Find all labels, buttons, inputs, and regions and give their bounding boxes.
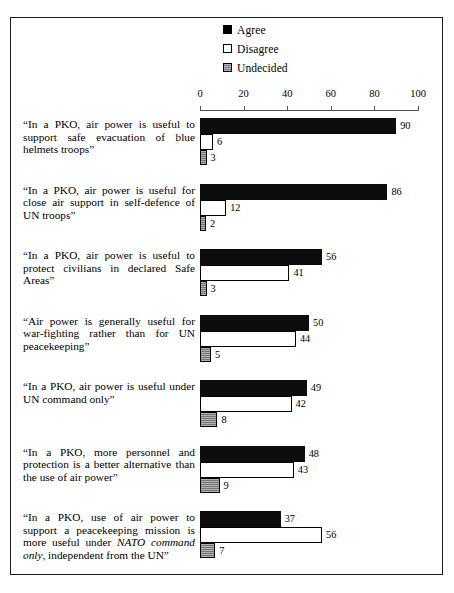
x-axis-tick-mark [374, 106, 375, 111]
bar-agree-value: 48 [309, 448, 319, 460]
bar-agree[interactable] [200, 511, 281, 527]
bar-disagree[interactable] [200, 462, 294, 478]
bar-undecided[interactable] [200, 478, 220, 493]
legend-swatch-undecided-icon [223, 63, 232, 72]
bar-undecided[interactable] [200, 281, 207, 296]
bar-row: 9 [200, 478, 444, 493]
bar-agree[interactable] [200, 184, 387, 200]
chart-frame: Agree Disagree Undecided 020406080100 “I… [10, 17, 443, 575]
bar-agree[interactable] [200, 118, 396, 134]
bar-disagree[interactable] [200, 134, 213, 150]
bar-undecided[interactable] [200, 347, 211, 362]
bar-undecided-value: 7 [219, 545, 224, 557]
bar-disagree[interactable] [200, 265, 289, 281]
bar-row: 48 [200, 446, 444, 462]
bar-disagree-value: 41 [293, 267, 303, 279]
x-axis-tick-mark [287, 106, 288, 111]
bar-row: 44 [200, 331, 444, 347]
bar-disagree[interactable] [200, 331, 296, 347]
legend-label-undecided: Undecided [237, 62, 288, 74]
bar-agree[interactable] [200, 249, 322, 265]
chart-group: “In a PKO, more personnel and protection… [11, 446, 444, 504]
bar-row: 6 [200, 134, 444, 150]
bar-undecided-value: 3 [211, 283, 216, 295]
question-label: “Air power is generally useful for war-f… [23, 315, 195, 353]
bar-group: 37567 [200, 511, 444, 569]
bar-undecided-value: 8 [221, 414, 226, 426]
bar-row: 41 [200, 265, 444, 281]
x-axis-line [200, 110, 418, 111]
bar-row: 43 [200, 462, 444, 478]
legend-swatch-disagree-icon [223, 44, 232, 53]
legend-item-disagree: Disagree [223, 40, 373, 57]
bar-group: 86122 [200, 184, 444, 242]
bar-undecided-value: 9 [224, 480, 229, 492]
legend-item-agree: Agree [223, 21, 373, 38]
bar-agree-value: 50 [313, 317, 323, 329]
chart-group: “In a PKO, air power is useful to protec… [11, 249, 444, 307]
bar-agree[interactable] [200, 315, 309, 331]
x-axis-tick-label: 20 [238, 88, 249, 99]
bar-agree[interactable] [200, 380, 307, 396]
x-axis-tick-mark [200, 106, 201, 111]
x-axis-tick-mark [331, 106, 332, 111]
question-label: “In a PKO, more personnel and protection… [23, 446, 195, 484]
question-label: “In a PKO, air power is useful to protec… [23, 249, 195, 287]
bar-row: 56 [200, 249, 444, 265]
x-axis-tick-label: 0 [197, 88, 202, 99]
bar-group: 48439 [200, 446, 444, 504]
bar-agree-value: 49 [311, 382, 321, 394]
chart-group: “Air power is generally useful for war-f… [11, 315, 444, 373]
chart-legend: Agree Disagree Undecided [223, 21, 373, 78]
bar-row: 90 [200, 118, 444, 134]
chart-group: “In a PKO, use of air power to support a… [11, 511, 444, 569]
bar-disagree[interactable] [200, 527, 322, 543]
bar-group: 50445 [200, 315, 444, 373]
bar-row: 5 [200, 347, 444, 362]
bar-undecided[interactable] [200, 216, 206, 231]
bar-disagree-value: 44 [300, 333, 310, 345]
chart-group: “In a PKO, air power is useful under UN … [11, 380, 444, 438]
legend-label-agree: Agree [237, 24, 266, 36]
bar-group: 9063 [200, 118, 444, 176]
x-axis-tick-mark [244, 106, 245, 111]
x-axis-tick-label: 100 [410, 88, 426, 99]
x-axis-tick-label: 60 [326, 88, 337, 99]
question-label: “In a PKO, air power is useful for close… [23, 184, 195, 222]
chart-group: “In a PKO, air power is useful to suppor… [11, 118, 444, 176]
legend-label-disagree: Disagree [237, 43, 279, 55]
x-axis-tick-label: 40 [282, 88, 293, 99]
bar-undecided[interactable] [200, 150, 207, 165]
bar-disagree-value: 43 [298, 464, 308, 476]
bar-row: 7 [200, 543, 444, 558]
bar-agree-value: 86 [391, 186, 401, 198]
question-label: “In a PKO, air power is useful to suppor… [23, 118, 195, 156]
x-axis-tick-label: 80 [369, 88, 380, 99]
bar-agree-value: 56 [326, 251, 336, 263]
bar-undecided[interactable] [200, 412, 217, 427]
bar-undecided-value: 2 [210, 218, 215, 230]
bar-disagree-value: 12 [230, 202, 240, 214]
legend-swatch-agree-icon [223, 25, 232, 34]
bar-group: 56413 [200, 249, 444, 307]
bar-disagree-value: 56 [326, 529, 336, 541]
bar-row: 50 [200, 315, 444, 331]
bar-undecided[interactable] [200, 543, 215, 558]
bar-row: 49 [200, 380, 444, 396]
bar-disagree-value: 6 [217, 136, 222, 148]
bar-row: 3 [200, 281, 444, 296]
question-label: “In a PKO, use of air power to support a… [23, 511, 195, 561]
bar-agree[interactable] [200, 446, 305, 462]
bar-row: 37 [200, 511, 444, 527]
bar-row: 3 [200, 150, 444, 165]
bar-undecided-value: 5 [215, 349, 220, 361]
bar-agree-value: 90 [400, 120, 410, 132]
bar-agree-value: 37 [285, 513, 295, 525]
bar-row: 42 [200, 396, 444, 412]
legend-item-undecided: Undecided [223, 59, 373, 76]
question-label: “In a PKO, air power is useful under UN … [23, 380, 195, 405]
x-axis-tick-mark [418, 106, 419, 111]
bar-disagree[interactable] [200, 200, 226, 216]
bar-row: 8 [200, 412, 444, 427]
bar-disagree[interactable] [200, 396, 292, 412]
